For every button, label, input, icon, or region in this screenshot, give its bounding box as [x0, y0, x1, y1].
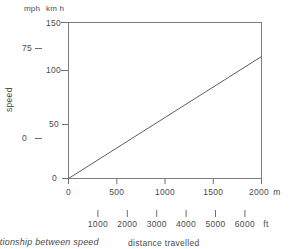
x-tick-m-1500: 1500: [203, 187, 223, 197]
speed-distance-chart: mph km h speed 150 100 50 0 75 0 0: [0, 0, 294, 249]
y-tick-kmh-0: 0: [52, 173, 57, 183]
x-tick-ft-4000: 4000: [176, 219, 196, 229]
x-tick-m-500: 500: [109, 187, 124, 197]
y-tick-kmh-150: 150: [46, 18, 61, 28]
y-ticks-kmh: 150 100 50 0: [46, 18, 69, 184]
y-unit-secondary-label: km h: [46, 4, 64, 13]
x-tick-ft-6000: 6000: [235, 219, 255, 229]
x-tick-m-1000: 1000: [155, 187, 175, 197]
plot-frame: [69, 23, 262, 179]
figure-container: mph km h speed 150 100 50 0 75 0 0: [0, 0, 294, 249]
y-ticks-mph: 75 0: [22, 43, 42, 143]
y-unit-primary-label: mph: [24, 4, 40, 13]
x-tick-ft-5000: 5000: [205, 219, 225, 229]
x-tick-m-0: 0: [66, 187, 71, 197]
y-tick-mph-75: 75: [22, 43, 32, 53]
figure-caption: relationship between speed: [0, 237, 100, 247]
y-tick-kmh-100: 100: [46, 65, 61, 75]
y-tick-kmh-50: 50: [49, 119, 59, 129]
x-unit-metres-label: m: [273, 187, 280, 197]
y-tick-mph-25: 0: [22, 133, 27, 143]
y-axis-title: speed: [4, 87, 14, 112]
x-tick-ft-2000: 2000: [117, 219, 137, 229]
x-tick-ft-1000: 1000: [88, 219, 108, 229]
x-axis-title: distance travelled: [128, 238, 200, 248]
data-line-speed: [69, 57, 262, 179]
x-tick-m-2000: 2000: [249, 187, 269, 197]
x-tick-ft-3000: 3000: [147, 219, 167, 229]
x-ticks-metres: 0 500 1000 1500 2000 m: [66, 179, 281, 198]
x-unit-feet-label: ft: [263, 219, 269, 229]
x-ticks-feet: 1000 2000 3000 4000 5000 6000 ft: [88, 210, 269, 229]
